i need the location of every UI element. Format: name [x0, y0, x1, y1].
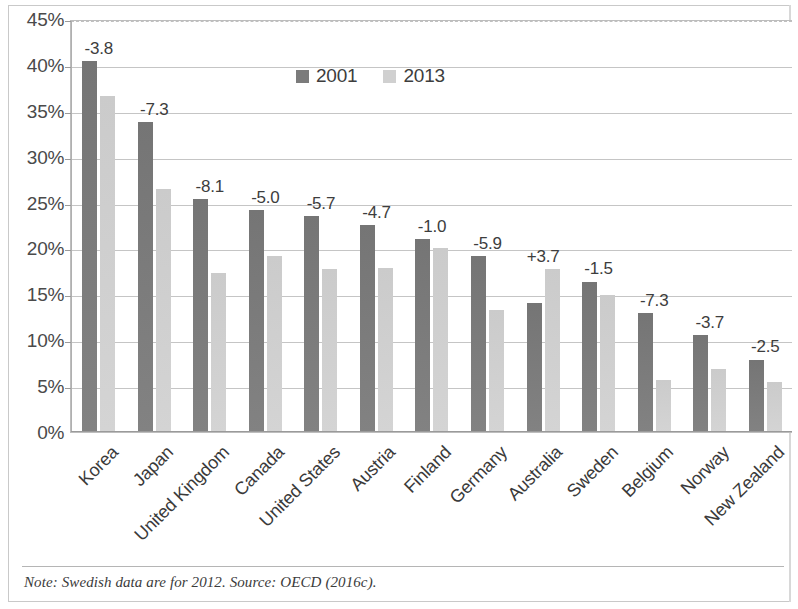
bar-2013[interactable] [600, 295, 615, 432]
bar-data-label: -1.0 [418, 217, 447, 237]
bar-data-label: -5.0 [251, 188, 280, 208]
bar-2013[interactable] [711, 369, 726, 432]
bar-data-label: -5.7 [307, 194, 336, 214]
legend-label-2001: 2001 [316, 65, 357, 87]
bar-2001[interactable] [360, 225, 375, 432]
legend-item-2001[interactable]: 2001 [296, 65, 357, 87]
bar-2001[interactable] [582, 282, 597, 433]
bar-2001[interactable] [249, 210, 264, 432]
bar-2001[interactable] [415, 239, 430, 432]
bar-data-label: -7.3 [640, 291, 669, 311]
legend-swatch-2001-icon [296, 70, 309, 83]
y-axis-tick-label: 20% [27, 238, 64, 260]
legend-label-2013: 2013 [403, 65, 444, 87]
bar-chart-figure: 45%40%35%30%25%20%15%10%5%0% -3.8-7.3-8.… [0, 0, 798, 609]
bar-2001[interactable] [471, 256, 486, 432]
bar-2001[interactable] [749, 360, 764, 433]
y-axis-tick-label: 35% [27, 101, 64, 123]
bar-2013[interactable] [656, 380, 671, 432]
legend-swatch-2013-icon [383, 70, 396, 83]
bar-2013[interactable] [545, 269, 560, 432]
y-axis-tick-label: 0% [37, 422, 64, 444]
bar-data-label: -2.5 [751, 337, 780, 357]
bar-2001[interactable] [527, 303, 542, 432]
bar-2013[interactable] [100, 96, 115, 432]
x-axis-line [71, 431, 792, 432]
bar-group: +3.7 [515, 21, 571, 432]
bar-2013[interactable] [267, 256, 282, 432]
bar-group: -1.5 [571, 21, 627, 432]
bar-group: -5.9 [460, 21, 516, 432]
figure-page: 45%40%35%30%25%20%15%10%5%0% -3.8-7.3-8.… [0, 0, 798, 609]
bar-data-label: -1.5 [584, 259, 613, 279]
bar-group: -8.1 [182, 21, 238, 432]
legend-item-2013[interactable]: 2013 [383, 65, 444, 87]
y-axis-tick-label: 5% [37, 376, 64, 398]
bar-2013[interactable] [378, 268, 393, 432]
bar-2013[interactable] [156, 189, 171, 432]
bar-2001[interactable] [138, 122, 153, 432]
bar-data-label: -3.7 [695, 313, 724, 333]
bar-2001[interactable] [304, 216, 319, 432]
bar-group: -7.3 [626, 21, 682, 432]
y-axis: 45%40%35%30%25%20%15%10%5%0% [16, 12, 64, 440]
figure-note: Note: Swedish data are for 2012. Source:… [24, 574, 377, 591]
legend: 2001 2013 [296, 65, 445, 87]
bar-group: -3.7 [682, 21, 738, 432]
bar-data-label: +3.7 [527, 247, 560, 267]
bar-2001[interactable] [82, 61, 97, 432]
y-axis-tick-label: 15% [27, 284, 64, 306]
bar-2013[interactable] [489, 310, 504, 432]
bar-2013[interactable] [433, 248, 448, 432]
bar-2013[interactable] [322, 269, 337, 432]
y-axis-tick-label: 40% [27, 55, 64, 77]
y-axis-tick-label: 10% [27, 330, 64, 352]
bar-2001[interactable] [693, 335, 708, 432]
bar-group: -5.0 [238, 21, 294, 432]
bar-group: -7.3 [127, 21, 183, 432]
plot-area: -3.8-7.3-8.1-5.0-5.7-4.7-1.0-5.9+3.7-1.5… [70, 20, 792, 433]
bar-2013[interactable] [767, 382, 782, 432]
note-divider [22, 566, 784, 567]
bar-data-label: -8.1 [196, 177, 225, 197]
bar-2001[interactable] [638, 313, 653, 432]
y-axis-tick-label: 30% [27, 147, 64, 169]
bar-2013[interactable] [211, 273, 226, 432]
y-axis-tick-label: 45% [27, 9, 64, 31]
y-axis-tick-label: 25% [27, 193, 64, 215]
bar-group: -2.5 [737, 21, 793, 432]
bar-data-label: -5.9 [473, 234, 502, 254]
x-axis-labels: KoreaJapanUnited KingdomCanadaUnited Sta… [70, 436, 792, 556]
bar-2001[interactable] [193, 199, 208, 432]
bar-group: -3.8 [71, 21, 127, 432]
bar-data-label: -4.7 [362, 203, 391, 223]
bar-data-label: -3.8 [85, 39, 114, 59]
bar-data-label: -7.3 [140, 100, 169, 120]
